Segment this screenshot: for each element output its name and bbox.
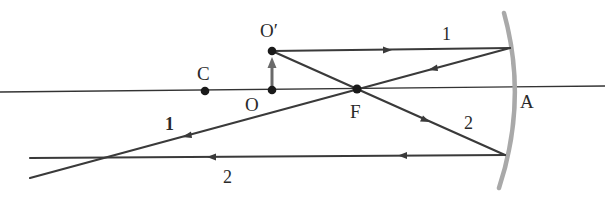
label-F: F: [350, 101, 361, 122]
point-C: [201, 87, 210, 96]
point-F: [353, 85, 362, 94]
label-ray-2-incident: 2: [464, 113, 473, 133]
label-ray-2-reflected: 2: [223, 167, 232, 187]
object-arrow-head-icon: [268, 57, 277, 68]
ray-2-reflected-arrow-icon-b: [207, 154, 216, 161]
label-O-prime: O′: [260, 20, 278, 41]
ray-2-reflected: [30, 155, 505, 158]
label-ray-1-incident: 1: [442, 24, 451, 44]
ray-1-incident-arrow-icon: [383, 47, 392, 54]
concave-mirror: [499, 13, 515, 188]
ray-1-reflected-arrow-icon-a: [428, 65, 438, 72]
ray-2-incident-arrow-icon: [420, 116, 430, 123]
ray-1-incident: [272, 48, 510, 51]
point-O-prime: [268, 47, 277, 56]
label-ray-1-reflected: 1: [165, 114, 174, 134]
ray-diagram: C O O′ F A 1 1 2 2: [0, 0, 605, 219]
label-O: O: [245, 94, 259, 115]
label-C: C: [197, 63, 210, 84]
ray-1-reflected-arrow-icon-b: [182, 132, 192, 139]
point-O: [268, 86, 277, 95]
ray-2-reflected-arrow-icon-a: [398, 152, 407, 159]
label-A: A: [520, 91, 534, 112]
